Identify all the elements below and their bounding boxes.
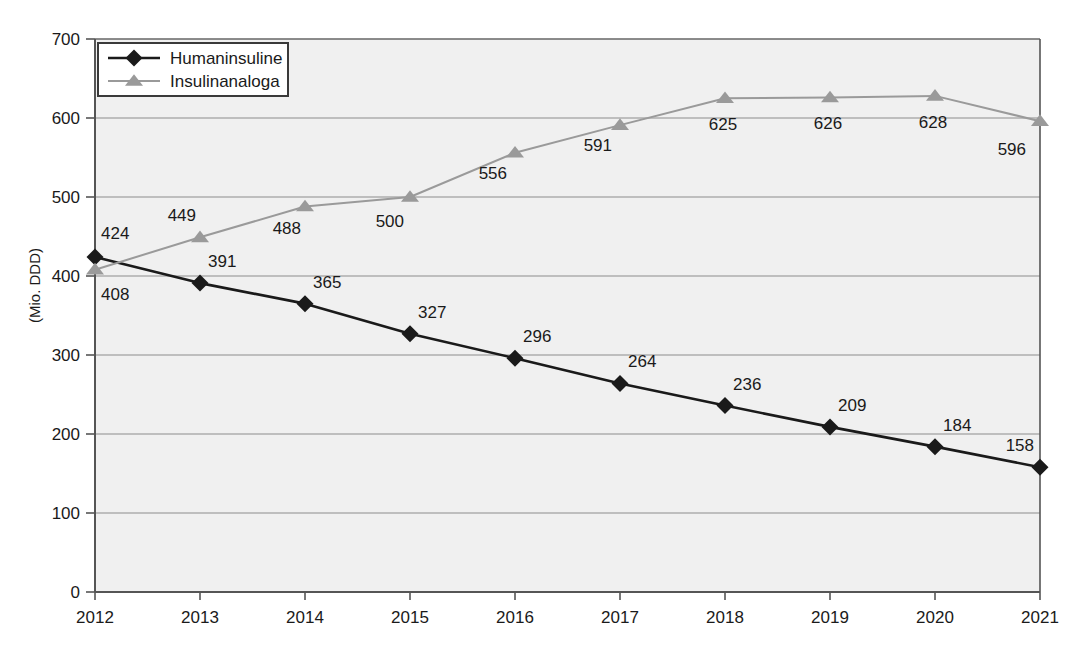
x-tick-label: 2020 [916,608,954,627]
x-tick-label: 2021 [1021,608,1059,627]
data-point-label: 296 [523,327,551,346]
y-tick-label: 400 [52,267,80,286]
data-point-label: 209 [838,396,866,415]
legend-label: Humaninsuline [170,49,282,68]
data-point-label: 628 [919,113,947,132]
plot-area-background [95,39,1040,592]
line-chart: 0100200300400500600700 20122013201420152… [0,0,1086,648]
data-point-label: 365 [313,273,341,292]
x-tick-label: 2015 [391,608,429,627]
chart-container: 0100200300400500600700 20122013201420152… [0,0,1086,648]
data-point-label: 500 [376,212,404,231]
y-tick-label: 600 [52,109,80,128]
y-tick-label: 200 [52,425,80,444]
data-point-label: 327 [418,303,446,322]
y-tick-label: 300 [52,346,80,365]
y-tick-label: 0 [71,583,80,602]
data-point-label: 391 [208,252,236,271]
data-point-label: 596 [998,140,1026,159]
x-tick-label: 2017 [601,608,639,627]
data-point-label: 408 [101,285,129,304]
data-point-label: 625 [709,115,737,134]
data-point-label: 591 [584,136,612,155]
x-tick-label: 2016 [496,608,534,627]
y-tick-label: 100 [52,504,80,523]
legend[interactable]: HumaninsulineInsulinanaloga [98,43,288,96]
data-point-label: 424 [101,224,129,243]
y-tick-label: 500 [52,188,80,207]
x-tick-label: 2014 [286,608,324,627]
data-point-label: 184 [943,416,971,435]
x-tick-label: 2013 [181,608,219,627]
legend-label: Insulinanaloga [170,72,280,91]
data-point-label: 488 [273,219,301,238]
data-point-label: 449 [168,206,196,225]
x-tick-label: 2018 [706,608,744,627]
y-axis-title: (Mio. DDD) [26,248,43,323]
x-tick-label: 2012 [76,608,114,627]
y-tick-label: 700 [52,30,80,49]
data-point-label: 626 [814,114,842,133]
legend-item-1[interactable]: Humaninsuline [108,49,282,68]
data-point-label: 556 [479,164,507,183]
x-tick-label: 2019 [811,608,849,627]
data-point-label: 264 [628,352,656,371]
data-point-label: 236 [733,375,761,394]
data-point-label: 158 [1006,436,1034,455]
